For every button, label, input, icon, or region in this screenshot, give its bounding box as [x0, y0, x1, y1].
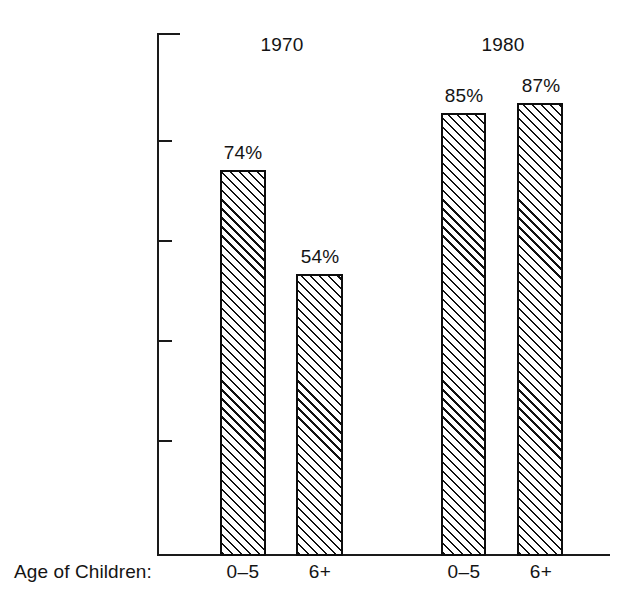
- bar-value-1980-0-5: 85%: [445, 85, 484, 107]
- y-axis-tick-1: [159, 140, 172, 142]
- bar-value-1980-6-plus: 87%: [522, 75, 561, 97]
- bar-1980-6-plus: [517, 103, 563, 556]
- bar-1970-0-5: [220, 170, 266, 556]
- bar-1980-0-5: [441, 113, 486, 556]
- group-label-1970: 1970: [260, 34, 303, 56]
- bar-chart: 1970 1980 74% 54% 85% 87% Age of Childre…: [0, 0, 629, 609]
- y-axis-tick-2: [159, 240, 172, 242]
- y-axis-tick-3: [159, 340, 172, 342]
- x-axis-caption: Age of Children:: [14, 561, 152, 583]
- bar-value-1970-0-5: 74%: [224, 142, 263, 164]
- group-label-1980: 1980: [481, 34, 524, 56]
- category-label-1980-6-plus: 6+: [530, 561, 552, 583]
- y-axis-tick-4: [159, 440, 172, 442]
- bar-value-1970-6-plus: 54%: [301, 246, 340, 268]
- category-label-1970-0-5: 0–5: [227, 561, 260, 583]
- category-label-1970-6-plus: 6+: [309, 561, 331, 583]
- bar-1970-6-plus: [296, 274, 343, 556]
- y-axis-line: [157, 33, 159, 556]
- y-axis-top-tick: [159, 33, 180, 35]
- category-label-1980-0-5: 0–5: [448, 561, 481, 583]
